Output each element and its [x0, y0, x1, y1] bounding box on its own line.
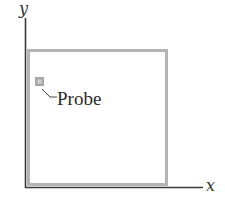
x-axis-label: x — [206, 178, 215, 194]
y-axis-label: y — [19, 1, 28, 17]
probe-diagram: y x Probe — [0, 0, 225, 204]
probe-label: Probe — [57, 89, 101, 108]
probe-leader-line — [42, 89, 57, 97]
region-box — [29, 51, 167, 185]
probe-marker-inner — [38, 80, 42, 84]
diagram-canvas — [0, 0, 225, 204]
